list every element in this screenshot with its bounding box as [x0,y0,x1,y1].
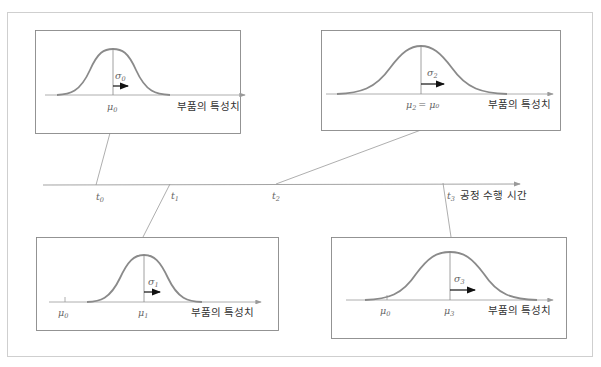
time-axis-line [43,184,520,185]
connector-lines [96,130,451,237]
panel-t3: σ3 μ0 μ3 부품의 특성치 [332,238,567,339]
panel-t2: σ2 μ2= μ₀ 부품의 특성치 [322,31,561,131]
tick-t1: t1 [171,190,179,203]
process-shift-diagram: t0 t1 t2 t3 공정 수행 시간 σ0 μ0 부품의 특성치 σ2 μ2… [0,0,601,367]
tick-t2: t2 [272,190,280,203]
panel-box [322,31,561,131]
connector-t1 [143,184,170,237]
axis-label: 부품의 특성치 [488,304,551,316]
panel-t0: σ0 μ0 부품의 특성치 [36,31,246,134]
axis-label: 부품의 특성치 [191,306,254,318]
tick-t0: t0 [96,191,104,204]
tick-t3: t3 [447,190,455,203]
time-axis-label: 공정 수행 시간 [460,189,527,201]
panel-box [36,31,241,134]
connector-t0 [96,133,110,185]
axis-label: 부품의 특성치 [177,100,240,112]
time-axis: t0 t1 t2 t3 공정 수행 시간 [43,184,527,204]
axis-label: 부품의 특성치 [488,98,551,110]
panel-t1: σ1 μ0 μ1 부품의 특성치 [37,238,279,331]
connector-t2 [276,130,421,184]
